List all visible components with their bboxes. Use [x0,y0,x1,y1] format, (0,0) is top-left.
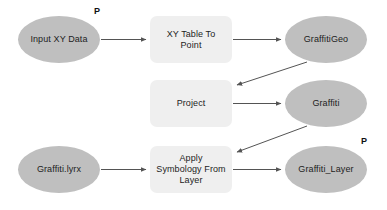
node-input-xy-data[interactable]: Input XY Data [18,16,100,63]
node-graffitigeo[interactable]: GraffitiGeo [285,16,367,63]
connector-graffiti-to-apply-symbology-from-layer[interactable] [237,126,307,152]
node-label-xy-table-to-point: XY Table To Point [163,29,220,51]
node-label-graffitigeo: GraffitiGeo [300,34,352,45]
node-apply-symbology-from-layer[interactable]: Apply Symbology From Layer [150,146,232,193]
node-xy-table-to-point[interactable]: XY Table To Point [150,16,232,63]
node-label-project: Project [173,98,210,109]
parameter-marker-graffiti-layer: P [361,136,367,146]
node-project[interactable]: Project [150,80,232,127]
node-label-graffiti-lyrx: Graffiti.lyrx [33,164,85,175]
node-graffiti-lyrx[interactable]: Graffiti.lyrx [18,146,100,193]
connector-graffitigeo-to-project[interactable] [237,62,307,85]
node-label-graffiti-layer: Graffiti_Layer [294,164,357,175]
parameter-marker-input-xy-data: P [94,6,100,16]
node-label-input-xy-data: Input XY Data [26,34,91,45]
model-diagram-canvas: Input XY DataPXY Table To PointGraffitiG… [0,0,387,210]
node-graffiti[interactable]: Graffiti [285,80,367,127]
node-label-graffiti: Graffiti [308,98,343,109]
node-label-apply-symbology-from-layer: Apply Symbology From Layer [152,153,229,186]
node-graffiti-layer[interactable]: Graffiti_Layer [285,146,367,193]
